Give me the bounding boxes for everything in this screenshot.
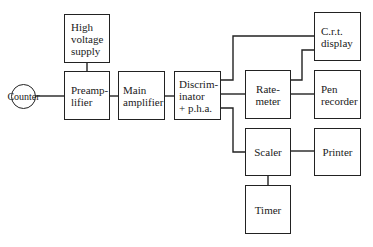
scaler-label: Scaler [246,146,290,158]
pen-recorder-box: Pen recorder [314,70,361,119]
discriminator-box: Discrim- inator + p.h.a. [174,71,221,120]
preamplifier-label: Preamp- lifier [71,84,108,108]
ratemeter-box: Rate- meter [245,70,291,119]
discriminator-label: Discrim- inator + p.h.a. [179,78,218,114]
hv-supply-label: High voltage supply [71,21,103,57]
hv-supply-box: High voltage supply [64,14,110,63]
counter-node: Counter [11,84,36,109]
main-amplifier-label: Main amplifier [123,84,163,108]
crt-display-label: C.r.t. display [321,25,353,49]
printer-label: Printer [315,146,360,158]
printer-box: Printer [314,128,361,176]
counter-label: Counter [7,91,39,102]
preamplifier-box: Preamp- lifier [64,71,110,120]
timer-box: Timer [245,185,291,234]
ratemeter-label: Rate- meter [246,83,290,107]
crt-display-box: C.r.t. display [314,12,361,61]
main-amplifier-box: Main amplifier [118,71,165,120]
pen-recorder-label: Pen recorder [321,83,358,107]
timer-label: Timer [246,204,290,216]
scaler-box: Scaler [245,128,291,176]
